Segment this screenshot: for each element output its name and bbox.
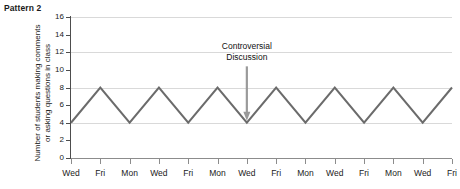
y-axis-tick [66, 158, 71, 159]
annotation-label: Controversial Discussion [177, 41, 317, 62]
y-axis-tick [66, 35, 71, 36]
x-axis-tick [305, 159, 306, 164]
y-axis-tick [66, 52, 71, 53]
x-axis-tick [423, 159, 424, 164]
annotation-label-line-2: Discussion [177, 52, 317, 63]
x-axis-tick [159, 159, 160, 164]
x-axis-tick-label: Fri [430, 168, 460, 178]
x-axis-tick [335, 159, 336, 164]
y-axis-tick [66, 88, 71, 89]
annotation-arrow [243, 66, 250, 120]
x-axis-tick [393, 159, 394, 164]
x-axis-tick [218, 159, 219, 164]
data-series-line [0, 0, 460, 189]
x-axis-tick [100, 159, 101, 164]
y-axis-tick [66, 140, 71, 141]
x-axis-tick [188, 159, 189, 164]
y-axis-tick [66, 17, 71, 18]
chart-figure: Pattern 2 Number of students making comm… [0, 0, 460, 189]
x-axis-tick [130, 159, 131, 164]
x-axis-tick [452, 159, 453, 164]
annotation-label-line-1: Controversial [177, 41, 317, 52]
y-axis-tick [66, 105, 71, 106]
x-axis-tick [364, 159, 365, 164]
x-axis-tick [71, 159, 72, 164]
x-axis-tick [276, 159, 277, 164]
x-axis-tick [247, 159, 248, 164]
y-axis-tick [66, 70, 71, 71]
y-axis-tick [66, 123, 71, 124]
